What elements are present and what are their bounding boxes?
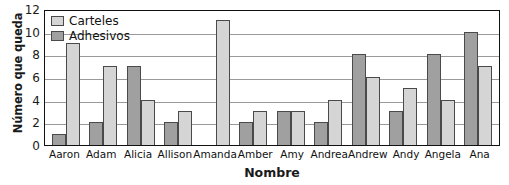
bar-group: [422, 11, 460, 145]
bar-carteles: [103, 66, 117, 145]
bar-group: [197, 11, 235, 145]
bar-group: [385, 11, 423, 145]
bar-adhesivos: [352, 54, 366, 145]
bar-carteles: [328, 100, 342, 145]
legend-item: Carteles: [51, 14, 130, 28]
bar-carteles: [141, 100, 155, 145]
y-axis-tick-label: 10: [18, 27, 40, 39]
bar-adhesivos: [277, 111, 291, 145]
x-axis-tick-label: Alicia: [120, 148, 157, 161]
bar-carteles: [478, 66, 492, 145]
bar-adhesivos: [127, 66, 141, 145]
bar-group: [347, 11, 385, 145]
bar-group: [235, 11, 273, 145]
x-axis-tick-label: Andrew: [348, 148, 388, 161]
bar-adhesivos: [89, 122, 103, 145]
legend-label: Carteles: [69, 15, 119, 27]
bar-chart-figure: Número que queda 121086420 CartelesAdhes…: [0, 0, 509, 185]
bar-carteles: [216, 20, 230, 145]
chart-title: [0, 0, 509, 3]
x-axis-tick-label: Andy: [388, 148, 425, 161]
x-axis-tick-label: Adam: [83, 148, 120, 161]
x-axis-tick-label: Andrea: [310, 148, 347, 161]
x-axis-tick-label: Aaron: [46, 148, 83, 161]
bar-carteles: [66, 43, 80, 145]
x-axis-tick-labels: AaronAdamAliciaAllisonAmandaAmberAmyAndr…: [44, 148, 500, 161]
y-axis-tick-label: 4: [18, 95, 40, 107]
plot-area: CartelesAdhesivos: [44, 10, 500, 146]
y-axis-tick-label: 2: [18, 117, 40, 129]
y-axis-tick-labels: 121086420: [18, 10, 40, 146]
bar-adhesivos: [427, 54, 441, 145]
legend-swatch-icon: [51, 31, 64, 41]
x-axis-tick-label: Amy: [274, 148, 311, 161]
y-axis-tick-label: 8: [18, 49, 40, 61]
y-axis-tick-label: 6: [18, 72, 40, 84]
x-axis-tick-label: Angela: [424, 148, 461, 161]
y-axis-tick-label: 12: [18, 4, 40, 16]
bar-group: [272, 11, 310, 145]
bar-carteles: [178, 111, 192, 145]
bar-carteles: [403, 88, 417, 145]
x-axis-tick-label: Ana: [461, 148, 498, 161]
bar-carteles: [366, 77, 380, 145]
y-axis-tick-label: 0: [18, 140, 40, 152]
bar-adhesivos: [389, 111, 403, 145]
x-axis-tick-label: Amanda: [193, 148, 237, 161]
bar-adhesivos: [314, 122, 328, 145]
bar-carteles: [441, 100, 455, 145]
bar-adhesivos: [164, 122, 178, 145]
bar-carteles: [291, 111, 305, 145]
x-axis-title: Nombre: [44, 165, 500, 180]
bar-adhesivos: [464, 32, 478, 145]
bar-group: [160, 11, 198, 145]
legend-label: Adhesivos: [69, 30, 130, 42]
bar-adhesivos: [52, 134, 66, 145]
chart-legend: CartelesAdhesivos: [51, 14, 130, 43]
x-axis-tick-label: Allison: [156, 148, 193, 161]
bar-carteles: [253, 111, 267, 145]
bar-group: [310, 11, 348, 145]
bar-adhesivos: [239, 122, 253, 145]
legend-item: Adhesivos: [51, 29, 130, 43]
legend-swatch-icon: [51, 16, 64, 26]
bar-group: [460, 11, 498, 145]
x-axis-tick-label: Amber: [237, 148, 274, 161]
